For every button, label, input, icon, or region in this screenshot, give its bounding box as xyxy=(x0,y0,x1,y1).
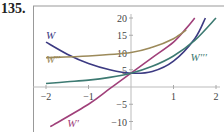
curve-label: W xyxy=(46,29,56,41)
curve-label: W′ xyxy=(67,117,79,129)
y-tick-label: −5 xyxy=(116,99,127,110)
x-tick-label: 1 xyxy=(171,91,176,102)
curve-label: W′′ xyxy=(46,53,61,65)
y-tick-label: 15 xyxy=(117,30,127,41)
y-tick-label: −10 xyxy=(111,117,127,128)
y-tick-label: 20 xyxy=(117,13,127,24)
curve-labels: WW′W′′W′′′ xyxy=(46,29,207,129)
x-tick-label: −1 xyxy=(83,91,94,102)
x-tick-label: 2 xyxy=(214,91,219,102)
axis-ticks: −2−1122015105−5−10 xyxy=(41,13,219,128)
x-tick-label: −2 xyxy=(41,91,52,102)
curve-label: W′′′ xyxy=(191,51,208,63)
chart: −2−1122015105−5−10 WW′W′′W′′′ xyxy=(0,0,224,132)
